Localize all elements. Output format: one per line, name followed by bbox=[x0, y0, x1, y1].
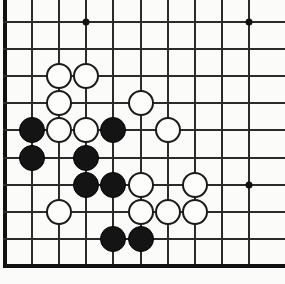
grid-line-vertical bbox=[194, 0, 196, 268]
star-point bbox=[245, 19, 252, 26]
white-stone[interactable] bbox=[73, 63, 99, 89]
go-board-container bbox=[0, 0, 285, 284]
black-stone[interactable] bbox=[100, 172, 126, 198]
white-stone[interactable] bbox=[46, 117, 72, 143]
grid-line-horizontal bbox=[3, 157, 285, 159]
go-board[interactable] bbox=[0, 0, 285, 284]
black-stone[interactable] bbox=[100, 226, 126, 252]
grid-line-vertical bbox=[221, 0, 223, 268]
black-stone[interactable] bbox=[128, 226, 154, 252]
black-stone[interactable] bbox=[73, 145, 99, 171]
white-stone[interactable] bbox=[182, 172, 208, 198]
board-left-edge-line bbox=[3, 0, 7, 268]
white-stone[interactable] bbox=[46, 90, 72, 116]
white-stone[interactable] bbox=[155, 199, 181, 225]
board-bottom-edge-line bbox=[3, 264, 285, 268]
grid-line-vertical bbox=[248, 0, 250, 268]
black-stone[interactable] bbox=[19, 145, 45, 171]
white-stone[interactable] bbox=[128, 199, 154, 225]
grid-line-horizontal bbox=[3, 48, 285, 50]
white-stone[interactable] bbox=[182, 199, 208, 225]
black-stone[interactable] bbox=[100, 117, 126, 143]
grid-line-horizontal bbox=[3, 21, 285, 23]
white-stone[interactable] bbox=[128, 172, 154, 198]
white-stone[interactable] bbox=[46, 63, 72, 89]
black-stone[interactable] bbox=[73, 172, 99, 198]
white-stone[interactable] bbox=[46, 199, 72, 225]
star-point bbox=[83, 19, 90, 26]
white-stone[interactable] bbox=[155, 117, 181, 143]
black-stone[interactable] bbox=[19, 117, 45, 143]
star-point bbox=[245, 181, 252, 188]
white-stone[interactable] bbox=[73, 117, 99, 143]
white-stone[interactable] bbox=[128, 90, 154, 116]
